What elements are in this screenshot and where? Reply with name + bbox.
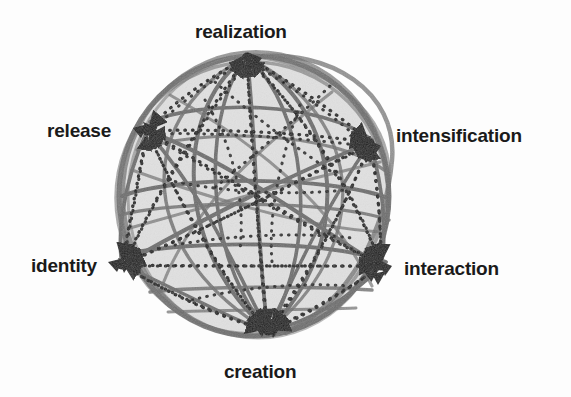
node-label-creation: creation	[224, 362, 296, 381]
sphere-network-svg	[0, 0, 571, 397]
node-label-interaction: interaction	[404, 259, 499, 278]
node-label-realization: realization	[195, 22, 287, 41]
diagram-canvas: realization release intensification iden…	[0, 0, 571, 397]
node-label-identity: identity	[31, 256, 97, 275]
node-label-release: release	[47, 121, 111, 140]
node-label-intensification: intensification	[396, 126, 522, 145]
